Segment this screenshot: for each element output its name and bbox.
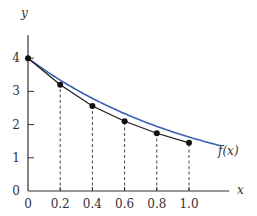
y-axis-label: y (20, 6, 28, 20)
y-tick-label: 0 (12, 184, 20, 198)
approximation-polyline (28, 58, 189, 143)
x-tick-label: 0.8 (147, 197, 166, 211)
data-point (89, 103, 95, 109)
chart: 00.20.40.60.81.001234 x y f(x) (0, 0, 257, 216)
x-tick-label: 0.6 (115, 197, 134, 211)
curve-label: f(x) (217, 144, 239, 158)
data-points (25, 55, 192, 146)
x-tick-label: 0.4 (83, 197, 102, 211)
data-point (122, 118, 128, 124)
data-point (57, 82, 63, 88)
data-point (186, 140, 192, 146)
y-tick-label: 1 (12, 151, 20, 165)
y-tick-label: 4 (12, 51, 20, 65)
y-tick-label: 3 (12, 84, 20, 98)
f-of-x-curve (28, 58, 221, 146)
y-tick-label: 2 (12, 118, 20, 132)
x-tick-label: 0 (24, 197, 32, 211)
x-tick-label: 0.2 (51, 197, 70, 211)
data-point (154, 130, 160, 136)
data-point (25, 55, 31, 61)
axes (28, 35, 229, 191)
dashed-drop-lines (60, 85, 189, 191)
x-axis-label: x (237, 183, 244, 197)
x-tick-label: 1.0 (179, 197, 198, 211)
